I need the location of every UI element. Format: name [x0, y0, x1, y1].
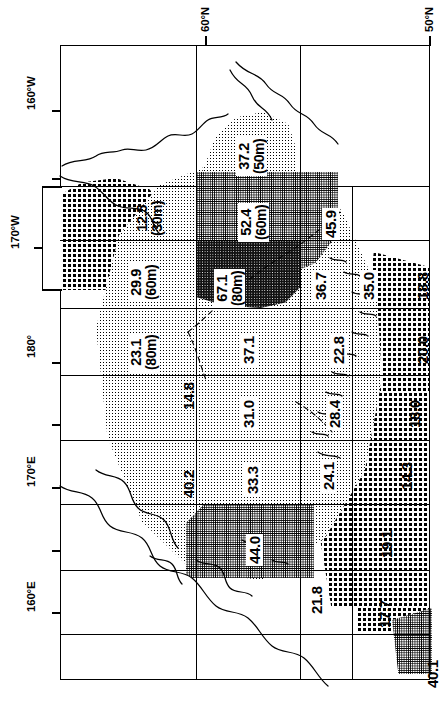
cell-depth: (80m) [230, 271, 244, 306]
cell-label-40-2: 40.2 [180, 468, 197, 500]
grid-line-v3 [352, 186, 353, 680]
cell-label-40-1: 40.1 [424, 658, 440, 690]
tick-lat-50n [429, 36, 431, 46]
tick-lon-170w [34, 247, 43, 249]
axis-label-lat-50n: 50°N [424, 7, 436, 32]
cell-label-33-3: 33.3 [244, 464, 261, 496]
axis-label-lon-170w: 170°W [10, 215, 22, 249]
cell-value: 24.1 [320, 462, 337, 490]
map-figure: 160°W 170°W 180° 170°E 160°E 60°N 50°N 3… [0, 0, 440, 702]
cell-value: 37.2 [236, 143, 252, 170]
grid-line-v1 [196, 45, 197, 680]
grid-line-h8 [60, 634, 430, 635]
axis-label-lon-180: 180° [26, 335, 38, 358]
cell-value: 36.7 [312, 272, 329, 300]
cell-value: 31.0 [240, 400, 257, 428]
axis-label-lon-170e: 170°E [26, 457, 38, 487]
axis-label-lon-160w: 160°W [26, 76, 38, 110]
cell-label-12-5: 12.5 (30m) [134, 199, 165, 238]
cell-label-20-0: 20.0 [414, 334, 431, 366]
grid-line-h6 [60, 504, 430, 505]
tick-lon-170e [52, 487, 61, 489]
tick-lon-mid1 [52, 178, 61, 180]
cell-value: 45.9 [322, 210, 339, 238]
cell-value: 44.0 [246, 536, 263, 564]
tick-lon-160e [52, 612, 61, 614]
cell-depth: (80m) [144, 335, 158, 370]
cell-value: 12.5 [134, 205, 150, 232]
cell-label-17-7: 17.7 [376, 598, 393, 630]
cell-label-37-2: 37.2 (50m) [236, 137, 267, 176]
cell-label-23-1: 23.1 (80m) [128, 333, 159, 372]
cell-label-19-1: 19.1 [378, 528, 395, 560]
cell-value: 19.1 [378, 530, 395, 558]
grid-line-h4 [60, 375, 430, 376]
grid-line-h3 [60, 308, 430, 309]
cell-value: 40.2 [180, 470, 197, 498]
cell-value: 67.1 [214, 275, 230, 302]
cell-label-18-8: 18.8 [414, 270, 431, 302]
cell-label-44-0: 44.0 [246, 534, 263, 566]
cell-label-18-0: 18.0 [406, 398, 423, 430]
cell-value: 37.1 [240, 336, 257, 364]
cell-label-29-9: 29.9 (60m) [128, 263, 159, 302]
cell-value: 17.7 [376, 600, 393, 628]
cell-label-14-3: 14.3 [398, 460, 415, 492]
cell-label-45-9: 45.9 [322, 208, 339, 240]
cell-value: 35.0 [360, 272, 377, 300]
tick-lon-mid2 [52, 424, 61, 426]
cell-depth: (30m) [150, 201, 164, 236]
cell-label-67-1: 67.1 (80m) [214, 269, 245, 308]
cell-value: 40.1 [424, 660, 440, 688]
axis-label-lat-60n: 60°N [200, 7, 212, 32]
grid-line-v2 [300, 45, 301, 680]
cell-label-14-8: 14.8 [180, 380, 197, 412]
cell-value: 28.4 [326, 400, 343, 428]
frame-notch-bottom [42, 289, 62, 291]
cell-value: 52.4 [238, 209, 254, 236]
cell-value: 21.8 [308, 586, 325, 614]
cell-value: 20.0 [414, 336, 431, 364]
cell-value: 29.9 [128, 269, 144, 296]
cell-value: 14.3 [398, 462, 415, 490]
cell-value: 22.8 [330, 336, 347, 364]
grid-line-h5 [60, 440, 430, 441]
cell-label-52-4: 52.4 (60m) [238, 203, 269, 242]
cell-label-28-4: 28.4 [326, 398, 343, 430]
frame-notch-top [42, 186, 62, 188]
cell-label-31-0: 31.0 [240, 398, 257, 430]
cell-depth: (60m) [144, 265, 158, 300]
tick-lon-160w [52, 110, 61, 112]
grid-line-h7 [60, 570, 430, 571]
cell-depth: (50m) [252, 139, 266, 174]
tick-lon-180 [52, 362, 61, 364]
cell-label-21-8: 21.8 [308, 584, 325, 616]
cell-depth: (60m) [254, 205, 268, 240]
grid-line-h1 [60, 186, 430, 187]
cell-value: 23.1 [128, 339, 144, 366]
cell-value: 33.3 [244, 466, 261, 494]
cell-value: 14.8 [180, 382, 197, 410]
cell-value: 18.0 [406, 400, 423, 428]
tick-lat-60n [205, 36, 207, 46]
cell-label-36-7: 36.7 [312, 270, 329, 302]
cell-value: 18.8 [414, 272, 431, 300]
cell-label-35-0: 35.0 [360, 270, 377, 302]
cell-label-24-1: 24.1 [320, 460, 337, 492]
cell-label-22-8: 22.8 [330, 334, 347, 366]
cell-label-37-1: 37.1 [240, 334, 257, 366]
tick-lon-mid3 [52, 550, 61, 552]
axis-label-lon-160e: 160°E [26, 582, 38, 612]
